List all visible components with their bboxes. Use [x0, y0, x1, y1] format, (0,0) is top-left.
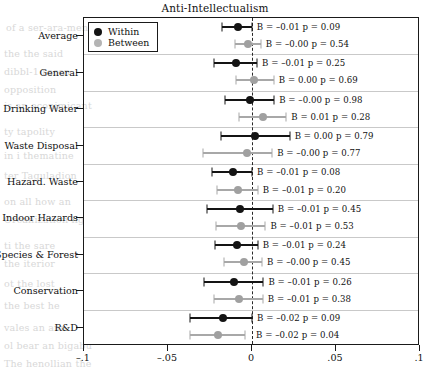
y-axis-tick [76, 145, 83, 146]
estimate-annotation-within: B = –0.00 p = 0.98 [279, 95, 362, 105]
row-separator [84, 54, 418, 55]
estimate-annotation-within: B = –0.01 p = 0.08 [257, 167, 340, 177]
estimate-annotation-between: B = –0.01 p = 0.20 [263, 185, 346, 195]
confidence-interval-cap [257, 59, 258, 68]
confidence-interval-cap [202, 149, 203, 158]
x-axis-tick-label: .1 [414, 352, 423, 363]
point-estimate-within [229, 168, 237, 176]
confidence-interval-cap [235, 76, 236, 85]
confidence-interval-cap [245, 331, 246, 340]
x-axis-tick [83, 345, 84, 351]
confidence-interval-cap [289, 131, 290, 140]
row-separator [84, 127, 418, 128]
legend-item-within: Within [94, 26, 149, 37]
y-axis-tick [76, 108, 83, 109]
point-estimate-within [236, 205, 244, 213]
point-estimate-between [234, 186, 242, 194]
confidence-interval-cap [234, 39, 235, 48]
confidence-interval-cap [260, 39, 261, 48]
estimate-annotation-between: B = 0.00 p = 0.69 [279, 75, 358, 85]
row-separator [84, 237, 418, 238]
y-axis-tick [76, 72, 83, 73]
estimate-annotation-between: B = 0.01 p = 0.28 [291, 112, 370, 122]
forest-plot: Anti-Intellectualism AverageGeneralDrink… [0, 0, 430, 379]
row-separator [84, 310, 418, 311]
confidence-interval-cap [213, 59, 214, 68]
point-estimate-between [244, 40, 252, 48]
confidence-interval-cap [222, 22, 223, 31]
y-axis-tick [76, 327, 83, 328]
point-estimate-within [230, 278, 238, 286]
point-estimate-within [251, 132, 259, 140]
confidence-interval-cap [207, 204, 208, 213]
row-separator [84, 91, 418, 92]
confidence-interval-cap [272, 149, 273, 158]
plot-legend: Within Between [88, 22, 158, 52]
point-estimate-between [240, 258, 248, 266]
confidence-interval-cap [224, 258, 225, 267]
confidence-interval-cap [203, 277, 204, 286]
x-axis-tick [419, 345, 420, 351]
point-estimate-between [259, 113, 267, 121]
y-axis-category-label: Average [38, 30, 78, 41]
estimate-annotation-between: B = –0.00 p = 0.45 [267, 257, 350, 267]
confidence-interval-cap [273, 76, 274, 85]
estimate-annotation-between: B = –0.02 p = 0.04 [256, 330, 339, 340]
confidence-interval-cap [216, 222, 217, 231]
row-separator [84, 164, 418, 165]
estimate-annotation-within: B = –0.01 p = 0.26 [268, 277, 351, 287]
confidence-interval-cap [217, 185, 218, 194]
confidence-interval-cap [257, 241, 258, 250]
confidence-interval-cap [214, 241, 215, 250]
point-estimate-within [246, 96, 254, 104]
confidence-interval-cap [225, 95, 226, 104]
estimate-annotation-between: B = –0.01 p = 0.53 [270, 221, 353, 231]
x-axis-tick [251, 345, 252, 351]
point-estimate-within [232, 59, 240, 67]
point-estimate-between [243, 149, 251, 157]
confidence-interval-cap [286, 112, 287, 121]
point-estimate-between [250, 76, 258, 84]
legend-label-between: Between [108, 37, 149, 48]
point-estimate-within [233, 241, 241, 249]
point-estimate-between [237, 222, 245, 230]
confidence-interval-between [203, 152, 272, 154]
y-axis-category-label: R&D [55, 321, 78, 332]
y-axis-tick [76, 181, 83, 182]
x-axis-tick [167, 345, 168, 351]
confidence-interval-cap [274, 95, 275, 104]
estimate-annotation-within: B = –0.01 p = 0.45 [278, 204, 361, 214]
plot-frame [83, 17, 419, 345]
y-axis-category-label: General [39, 66, 78, 77]
y-axis-category-label: Conservation [13, 285, 78, 296]
y-axis-tick [76, 254, 83, 255]
confidence-interval-cap [221, 131, 222, 140]
legend-item-between: Between [94, 37, 149, 48]
zero-line [252, 18, 253, 344]
y-axis-tick [76, 217, 83, 218]
y-axis-category-label: Indoor Hazards [2, 212, 78, 223]
confidence-interval-cap [272, 204, 273, 213]
x-axis-tick-label: .05 [327, 352, 342, 363]
confidence-interval-cap [263, 277, 264, 286]
x-axis-tick-label: –.1 [76, 352, 90, 363]
y-axis-category-label: Waste Disposal [4, 139, 78, 150]
y-axis-category-label: Species & Forest [0, 248, 78, 259]
between-dot-icon [94, 39, 102, 47]
estimate-annotation-within: B = –0.01 p = 0.09 [257, 22, 340, 32]
estimate-annotation-between: B = –0.00 p = 0.77 [277, 148, 360, 158]
confidence-interval-cap [239, 112, 240, 121]
x-axis-tick-label: –.05 [157, 352, 177, 363]
row-separator [84, 200, 418, 201]
confidence-interval-cap [262, 294, 263, 303]
y-axis-tick [76, 35, 83, 36]
confidence-interval-cap [257, 185, 258, 194]
within-dot-icon [94, 28, 102, 36]
x-axis-tick [335, 345, 336, 351]
estimate-annotation-between: B = –0.00 p = 0.54 [266, 39, 349, 49]
confidence-interval-cap [252, 168, 253, 177]
estimate-annotation-within: B = –0.02 p = 0.09 [257, 313, 340, 323]
point-estimate-within [234, 23, 242, 31]
confidence-interval-cap [189, 314, 190, 323]
confidence-interval-cap [265, 222, 266, 231]
